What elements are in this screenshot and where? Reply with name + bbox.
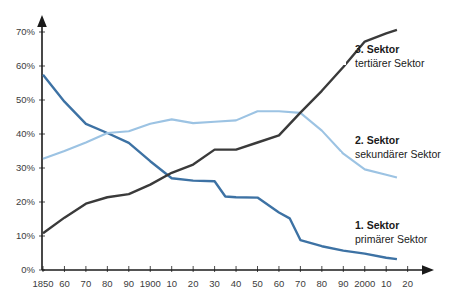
x-tick-label: 70 <box>81 278 92 289</box>
x-tick-label: 80 <box>102 278 113 289</box>
y-tick-label: 40% <box>16 128 36 139</box>
y-tick-label: 60% <box>16 60 36 71</box>
x-tick-label: 60 <box>59 278 70 289</box>
y-tick-label: 10% <box>16 230 36 241</box>
sector-shift-line-chart: 0%10%20%30%40%50%60%70% 1850607080901900… <box>0 0 459 301</box>
x-tick-label: 10 <box>166 278 177 289</box>
y-tick-label: 20% <box>16 196 36 207</box>
x-tick-label: 20 <box>402 278 413 289</box>
y-tick-label: 0% <box>21 264 35 275</box>
line-break-mask <box>339 57 346 65</box>
x-tick-label: 90 <box>124 278 135 289</box>
x-tick-label: 1850 <box>32 278 53 289</box>
y-tick-label: 70% <box>16 26 36 37</box>
legend-sector2: 2. Sektor sekundärer Sektor <box>355 134 441 160</box>
legend-sector1-subtitle: primärer Sektor <box>355 233 428 245</box>
y-tick-label: 30% <box>16 162 36 173</box>
x-axis-arrowhead <box>422 265 434 275</box>
x-tick-label: 90 <box>338 278 349 289</box>
x-tick-label: 2000 <box>354 278 375 289</box>
x-tick-label: 60 <box>274 278 285 289</box>
x-tick-label: 30 <box>209 278 220 289</box>
x-tick-label: 70 <box>295 278 306 289</box>
x-tick-label: 10 <box>381 278 392 289</box>
y-axis-arrowhead <box>37 15 47 27</box>
series-line-2-sektor <box>43 111 397 177</box>
x-tick-label: 20 <box>188 278 199 289</box>
legend-sector3-title: 3. Sektor <box>355 43 399 55</box>
x-tick-label: 50 <box>252 278 263 289</box>
chart-container: 0%10%20%30%40%50%60%70% 1850607080901900… <box>0 0 459 301</box>
legend-sector1-title: 1. Sektor <box>355 219 399 231</box>
x-tick-label: 80 <box>317 278 328 289</box>
line-break-mask <box>334 152 341 158</box>
data-series-group <box>43 30 397 259</box>
legend-sector3-subtitle: tertiärer Sektor <box>355 57 425 69</box>
x-tick-label: 1900 <box>140 278 161 289</box>
line-break-mask <box>334 236 341 240</box>
legend-sector2-subtitle: sekundärer Sektor <box>355 148 441 160</box>
legend-sector3: 3. Sektor tertiärer Sektor <box>355 43 425 69</box>
y-tick-label: 50% <box>16 94 36 105</box>
series-line-1-sektor <box>43 75 397 259</box>
y-axis-ticks: 0%10%20%30%40%50%60%70% <box>16 26 45 275</box>
legend-sector2-title: 2. Sektor <box>355 134 399 146</box>
x-tick-label: 40 <box>231 278 242 289</box>
legend-sector1: 1. Sektor primärer Sektor <box>355 219 428 245</box>
